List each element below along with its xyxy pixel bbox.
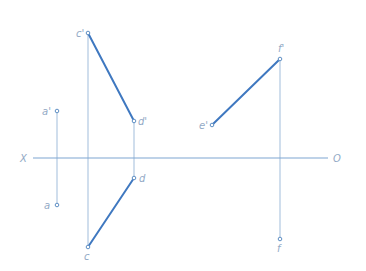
axis-label-o: O (333, 153, 341, 164)
label-f-prime: f' (278, 43, 284, 54)
label-c-prime: c' (76, 28, 84, 39)
label-c: c (84, 251, 90, 262)
point-a (55, 203, 59, 207)
point-d (132, 176, 136, 180)
segment-c-prime-d-prime (88, 33, 134, 121)
point-f-prime (278, 57, 282, 61)
segment-e-prime-f-prime (212, 59, 280, 125)
point-a-prime (55, 109, 59, 113)
label-f: f (277, 243, 282, 254)
point-e-prime (210, 123, 214, 127)
point-d-prime (132, 119, 136, 123)
segment-c-d (88, 178, 134, 247)
point-f (278, 237, 282, 241)
label-a: a (44, 200, 50, 211)
axis-label-x: X (19, 153, 28, 164)
label-d: d (139, 173, 146, 184)
label-e-prime: e' (199, 120, 208, 131)
point-c (86, 245, 90, 249)
label-d-prime: d' (138, 116, 147, 127)
projection-diagram: X O a' a c' c d' d e' f' f (0, 0, 366, 271)
label-a-prime: a' (42, 106, 51, 117)
point-c-prime (86, 31, 90, 35)
